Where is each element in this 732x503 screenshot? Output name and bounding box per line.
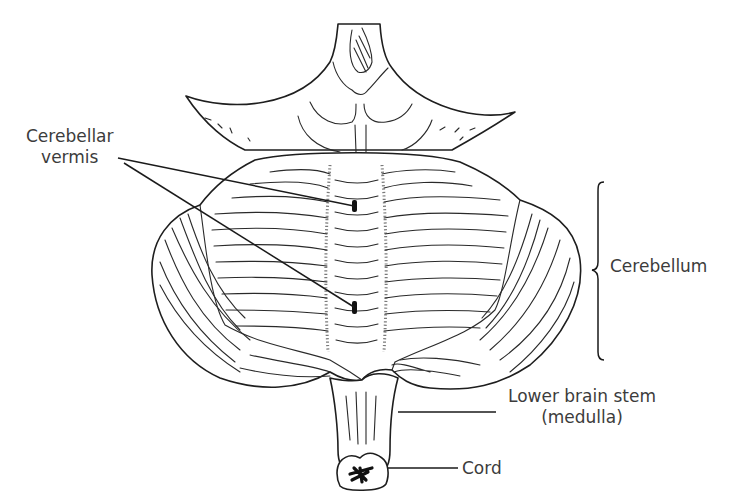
vermis-label-line2: vermis <box>26 147 114 168</box>
cerebellum <box>152 153 581 389</box>
medulla-label: Lower brain stem (medulla) <box>508 386 656 428</box>
cerebellum-diagram: Cerebellar vermis Cerebellum Lower brain… <box>0 0 732 503</box>
medulla-label-line1: Lower brain stem <box>508 386 656 407</box>
vermis-label-line1: Cerebellar <box>26 126 114 147</box>
upper-brainstem <box>186 24 515 152</box>
cerebellum-label: Cerebellum <box>610 256 707 277</box>
cord-label: Cord <box>462 458 502 479</box>
cerebellar-vermis-label: Cerebellar vermis <box>26 126 114 168</box>
medulla-label-line2: (medulla) <box>508 407 656 428</box>
vermis-marker-lower <box>352 301 357 314</box>
medulla <box>330 374 398 491</box>
